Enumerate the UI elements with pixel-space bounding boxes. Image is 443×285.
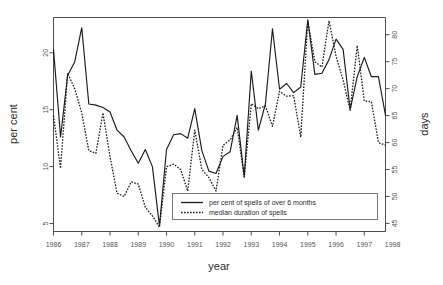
chart-container: 5101520 4550556065707580 198619871988198… bbox=[0, 0, 443, 285]
line-chart: 5101520 4550556065707580 198619871988198… bbox=[0, 0, 443, 285]
y-axis-left-title: per cent bbox=[7, 104, 19, 144]
y-tick-label-right: 80 bbox=[391, 31, 398, 39]
y-tick-label-right: 60 bbox=[391, 139, 398, 147]
y-tick-label-right: 55 bbox=[391, 166, 398, 174]
y-tick-label-right: 75 bbox=[391, 58, 398, 66]
x-tick-label: 1989 bbox=[130, 241, 146, 248]
y-tick-label-left: 20 bbox=[42, 49, 49, 57]
x-tick-label: 1988 bbox=[102, 241, 118, 248]
y-tick-label-right: 65 bbox=[391, 112, 398, 120]
x-tick-label: 1998 bbox=[385, 241, 401, 248]
y-tick-label-left: 10 bbox=[42, 163, 49, 171]
x-tick-label: 1993 bbox=[243, 241, 259, 248]
x-tick-label: 1992 bbox=[215, 241, 231, 248]
legend: per cent of spells of over 6 months medi… bbox=[173, 194, 378, 220]
x-tick-label: 1986 bbox=[46, 241, 62, 248]
y-tick-label-left: 5 bbox=[42, 221, 49, 225]
x-tick-label: 1991 bbox=[187, 241, 203, 248]
x-tick-label: 1996 bbox=[328, 241, 344, 248]
x-tick-label: 1987 bbox=[74, 241, 90, 248]
x-tick-label: 1990 bbox=[159, 241, 175, 248]
legend-label-0: per cent of spells of over 6 months bbox=[209, 199, 316, 207]
x-axis-title: year bbox=[208, 260, 230, 272]
y-axis-right-title: days bbox=[418, 112, 430, 136]
x-tick-label: 1995 bbox=[300, 241, 316, 248]
x-tick-label: 1997 bbox=[357, 241, 373, 248]
y-tick-label-right: 50 bbox=[391, 192, 398, 200]
x-tick-label: 1994 bbox=[272, 241, 288, 248]
y-tick-label-right: 45 bbox=[391, 219, 398, 227]
y-tick-label-right: 70 bbox=[391, 85, 398, 93]
y-tick-label-left: 15 bbox=[42, 106, 49, 114]
legend-label-1: median duration of spells bbox=[209, 209, 287, 217]
